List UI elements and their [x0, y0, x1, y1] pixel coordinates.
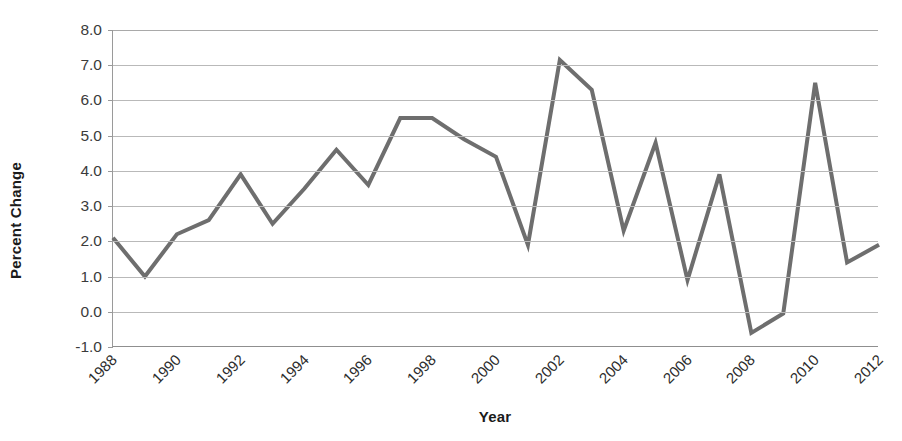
y-tickmark: [108, 171, 113, 172]
y-tick-label: 1.0: [40, 268, 102, 286]
y-tick-label: 2.0: [40, 232, 102, 250]
gridline: [113, 312, 878, 313]
x-tick-label: 2012: [825, 351, 887, 413]
x-axis-tick-labels: 1988199019921994199619982000200220042006…: [112, 347, 878, 407]
x-tick-label: 1992: [186, 351, 248, 413]
y-tickmark: [108, 312, 113, 313]
y-tickmark: [108, 206, 113, 207]
y-tickmark: [108, 100, 113, 101]
x-tick-label: 2006: [633, 351, 695, 413]
x-tick-label: 1994: [250, 351, 312, 413]
gridline: [113, 65, 878, 66]
y-tickmark: [108, 277, 113, 278]
gridline: [113, 100, 878, 101]
gridline: [113, 136, 878, 137]
gridline: [113, 30, 878, 31]
y-tick-label: 8.0: [40, 21, 102, 39]
x-tick-label: 1998: [378, 351, 440, 413]
plot-area: [112, 30, 878, 347]
y-tick-label: 6.0: [40, 91, 102, 109]
y-tick-label: 3.0: [40, 197, 102, 215]
y-tickmark: [108, 241, 113, 242]
gridline: [113, 171, 878, 172]
y-tickmark: [108, 30, 113, 31]
line-chart: Percent Change 8.07.06.05.04.03.02.01.00…: [0, 0, 902, 441]
y-axis-title: Percent Change: [0, 0, 30, 441]
y-tickmark: [108, 136, 113, 137]
gridline: [113, 241, 878, 242]
x-tick-label: 2000: [442, 351, 504, 413]
x-tick-label: 1996: [314, 351, 376, 413]
x-tick-label: 2008: [697, 351, 759, 413]
x-tick-label: 2004: [569, 351, 631, 413]
y-tick-label: 4.0: [40, 162, 102, 180]
y-tickmark: [108, 65, 113, 66]
x-tick-label: 2002: [505, 351, 567, 413]
x-tick-label: 2010: [761, 351, 823, 413]
x-axis-title: Year: [112, 408, 878, 425]
gridline: [113, 206, 878, 207]
gridline: [113, 277, 878, 278]
series-line: [113, 30, 879, 347]
x-tick-label: 1990: [122, 351, 184, 413]
y-tick-label: -1.0: [40, 338, 102, 356]
y-tick-label: 0.0: [40, 303, 102, 321]
y-tick-label: 7.0: [40, 56, 102, 74]
y-tick-label: 5.0: [40, 127, 102, 145]
